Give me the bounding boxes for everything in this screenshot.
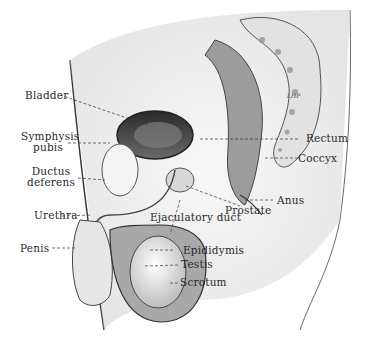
label-bladder: Bladder	[25, 90, 68, 101]
artist-signature: LHP	[287, 92, 300, 99]
label-anus: Anus	[277, 195, 304, 206]
label-coccyx: Coccyx	[298, 153, 337, 164]
label-testis: Testis	[181, 259, 213, 270]
label-symphysis-pubis: Symphysis pubis	[21, 131, 75, 153]
label-scrotum: Scrotum	[180, 277, 227, 288]
label-ductus-line-2: deferens	[25, 177, 77, 188]
label-penis: Penis	[20, 243, 49, 254]
label-epididymis: Epididymis	[183, 245, 244, 256]
label-rectum: Rectum	[306, 133, 348, 144]
label-ejaculatory-duct: Ejaculatory duct	[150, 212, 241, 223]
label-ductus-deferens: Ductus deferens	[25, 166, 77, 188]
label-symphysis-line-2: pubis	[21, 142, 75, 153]
label-urethra: Urethra	[34, 210, 78, 221]
